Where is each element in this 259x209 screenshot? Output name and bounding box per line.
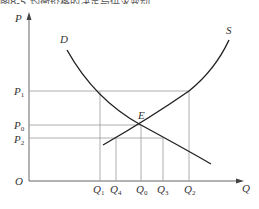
equilibrium-label: E [137, 109, 145, 121]
q2-label: Q2 [184, 183, 196, 197]
q1-label: Q1 [93, 183, 105, 197]
y-axis-arrow-icon [27, 12, 32, 20]
p0-label: P0 [13, 119, 25, 133]
x-axis-label: Q [242, 182, 250, 194]
origin-label: O [15, 175, 23, 187]
p1-label: P1 [13, 85, 25, 99]
q4-label: Q4 [110, 183, 122, 197]
supply-curve [103, 40, 229, 145]
y-axis-label: P [14, 12, 22, 24]
q3-label: Q3 [157, 183, 169, 197]
guide-lines [29, 91, 189, 181]
demand-label: D [59, 33, 68, 45]
supply-label: S [226, 24, 232, 36]
q0-label: Q0 [136, 183, 148, 197]
supply-demand-diagram: P Q O D S E P1 P0 P2 Q1 Q4 Q0 Q3 Q2 [0, 0, 259, 209]
p2-label: P2 [13, 133, 25, 147]
